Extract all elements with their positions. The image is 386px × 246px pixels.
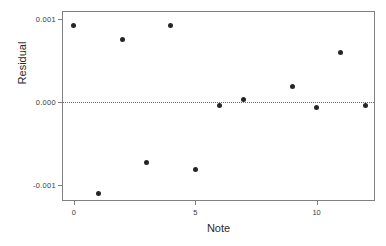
y-axis-tick-label: -0.001 bbox=[33, 180, 56, 189]
data-point bbox=[290, 84, 295, 89]
data-point bbox=[96, 191, 101, 196]
x-axis-tick-label: 10 bbox=[312, 208, 320, 217]
plot-area: 0.0010.000-0.0010510 bbox=[63, 12, 374, 200]
y-axis-tick bbox=[58, 185, 63, 186]
x-axis-tick bbox=[74, 200, 75, 205]
y-axis-tick-label: 0.000 bbox=[36, 97, 56, 106]
x-axis-tick-label: 5 bbox=[193, 208, 197, 217]
residual-scatter-figure: 0.0010.000-0.0010510 Note Residual bbox=[0, 0, 386, 246]
data-point bbox=[71, 23, 76, 28]
y-axis-title: Residual bbox=[16, 0, 28, 133]
data-point bbox=[120, 37, 125, 42]
x-axis-tick-label: 0 bbox=[72, 208, 76, 217]
data-point bbox=[168, 23, 173, 28]
y-axis-tick bbox=[58, 19, 63, 20]
x-axis-title: Note bbox=[62, 222, 375, 234]
data-point bbox=[314, 105, 319, 110]
data-point bbox=[144, 160, 149, 165]
x-axis-tick bbox=[317, 200, 318, 205]
data-point bbox=[193, 167, 198, 172]
plot-frame: 0.0010.000-0.0010510 bbox=[62, 11, 375, 201]
x-axis-tick bbox=[195, 200, 196, 205]
data-point bbox=[363, 103, 368, 108]
y-axis-tick-label: 0.001 bbox=[36, 14, 56, 23]
data-point bbox=[338, 50, 343, 55]
y-axis-tick bbox=[58, 102, 63, 103]
data-point bbox=[217, 103, 222, 108]
